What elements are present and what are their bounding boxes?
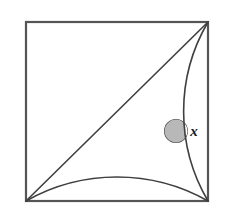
angle-label-x: x — [189, 123, 198, 139]
figure-canvas: x — [0, 0, 226, 213]
geometry-figure: x — [0, 0, 226, 213]
figure-background — [0, 0, 226, 213]
